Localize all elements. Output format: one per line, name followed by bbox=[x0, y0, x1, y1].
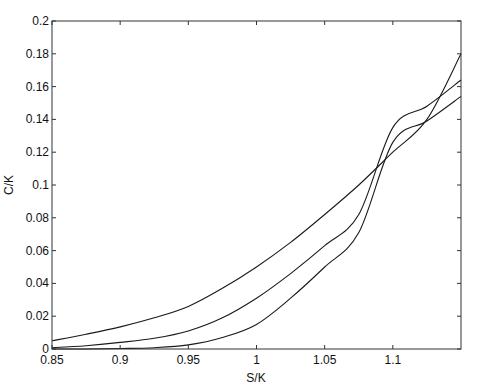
y-tick-label: 0.1 bbox=[32, 178, 49, 192]
y-tick-label: 0.06 bbox=[26, 244, 50, 258]
x-axis-label: S/K bbox=[246, 371, 265, 385]
x-tick-label: 1.05 bbox=[313, 353, 337, 367]
x-axis-ticks: 0.850.90.9511.051.1 bbox=[40, 21, 401, 367]
y-axis-label: C/K bbox=[2, 175, 16, 195]
curve-middle bbox=[52, 80, 461, 348]
plot-curves bbox=[52, 54, 461, 349]
x-tick-label: 0.9 bbox=[112, 353, 129, 367]
y-axis-ticks: 00.020.040.060.080.10.120.140.160.180.2 bbox=[26, 14, 461, 356]
plot-frame bbox=[52, 21, 461, 349]
y-tick-label: 0.2 bbox=[32, 14, 49, 28]
y-tick-label: 0.12 bbox=[26, 145, 50, 159]
y-tick-label: 0.16 bbox=[26, 80, 50, 94]
y-tick-label: 0.14 bbox=[26, 112, 50, 126]
y-tick-label: 0.04 bbox=[26, 276, 50, 290]
y-tick-label: 0.08 bbox=[26, 211, 50, 225]
y-tick-label: 0.18 bbox=[26, 47, 50, 61]
y-tick-label: 0 bbox=[42, 342, 49, 356]
y-tick-label: 0.02 bbox=[26, 309, 50, 323]
curve-lower bbox=[52, 96, 461, 349]
x-tick-label: 1 bbox=[253, 353, 260, 367]
x-tick-label: 0.95 bbox=[177, 353, 201, 367]
chart: 0.850.90.9511.051.1 00.020.040.060.080.1… bbox=[0, 0, 477, 389]
x-tick-label: 1.1 bbox=[384, 353, 401, 367]
